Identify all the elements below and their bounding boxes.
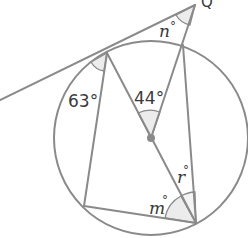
- label-Q: Q: [201, 0, 213, 11]
- svg-text:°: °: [162, 193, 168, 207]
- label-n: n °: [159, 19, 176, 41]
- label-r: r °: [177, 163, 189, 187]
- svg-text:n: n: [159, 21, 170, 41]
- centre-dot: [147, 134, 155, 142]
- label-63: 63°: [68, 91, 98, 111]
- circle-geometry-diagram: Q 63° 44° n ° m ° r °: [0, 0, 248, 238]
- chord-T-C: [84, 53, 107, 206]
- label-44: 44°: [134, 88, 164, 108]
- tangent-line: [0, 5, 195, 100]
- svg-text:°: °: [183, 163, 189, 177]
- label-m: m °: [149, 193, 168, 218]
- svg-text:°: °: [170, 19, 176, 33]
